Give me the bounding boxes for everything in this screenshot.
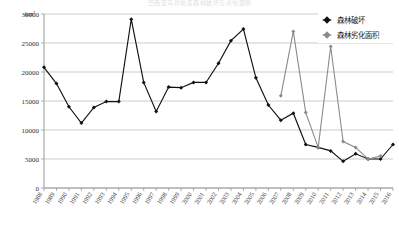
data-point-marker: [167, 85, 171, 89]
xtick-label: 2007: [267, 190, 280, 205]
data-point-marker: [179, 86, 183, 90]
data-point-marker: [341, 140, 345, 144]
xtick-label: 1989: [43, 191, 56, 206]
xtick-label: 2015: [367, 191, 380, 206]
xtick-label: 2004: [230, 190, 243, 205]
y-axis-unit-label: km²: [25, 10, 35, 17]
ytick-label: 10000: [22, 127, 40, 135]
data-point-marker: [304, 111, 308, 115]
ytick-label: 15000: [22, 98, 40, 106]
xtick-label: 2001: [193, 191, 206, 206]
ytick-label: 5000: [25, 156, 40, 164]
legend-item-forest-degradation: 森林劣化面积: [318, 27, 397, 42]
xtick-label: 2008: [280, 191, 293, 206]
xtick-label: 1995: [118, 191, 131, 206]
data-point-marker: [142, 80, 146, 84]
xtick-label: 1996: [130, 191, 143, 206]
xtick-label: 1998: [155, 191, 168, 206]
chart-container: 巴西亚马孙地区森林破坏与劣化面积 05000100001500020000250…: [0, 0, 399, 236]
legend-label-forest-destruction: 森林破坏: [337, 14, 365, 25]
xtick-label: 1994: [105, 190, 118, 205]
data-point-marker: [154, 109, 158, 113]
xtick-label: 1991: [68, 191, 81, 206]
xtick-label: 2009: [292, 191, 305, 206]
xtick-label: 2000: [180, 191, 193, 206]
legend-marker-diamond-gray: [322, 30, 332, 40]
xtick-label: 2005: [243, 191, 256, 206]
xtick-label: 2010: [305, 191, 318, 206]
xtick-label: 2002: [205, 191, 218, 206]
data-point-marker: [329, 44, 333, 48]
ytick-label: 25000: [22, 40, 40, 48]
data-point-marker: [117, 100, 121, 104]
xtick-label: 1988: [31, 191, 44, 206]
xtick-label: 2012: [330, 191, 343, 206]
series-line-1: [281, 31, 381, 159]
xtick-label: 2003: [218, 191, 231, 206]
xtick-label: 2013: [342, 191, 355, 206]
xtick-label: 2011: [317, 191, 330, 205]
data-point-marker: [279, 94, 283, 98]
xtick-label: 1990: [56, 191, 69, 206]
chart-legend: 森林破坏 森林劣化面积: [318, 12, 397, 43]
xtick-label: 2016: [380, 191, 393, 206]
xtick-label: 1992: [80, 191, 93, 206]
legend-label-forest-degradation: 森林劣化面积: [337, 29, 379, 40]
data-point-marker: [254, 76, 258, 80]
ytick-label: 20000: [22, 69, 40, 77]
legend-item-forest-destruction: 森林破坏: [318, 12, 397, 27]
xtick-label: 1999: [168, 191, 181, 206]
xtick-label: 1997: [143, 190, 156, 205]
legend-marker-diamond-black: [322, 15, 332, 25]
xtick-label: 2006: [255, 191, 268, 206]
xtick-label: 1993: [93, 191, 106, 206]
data-point-marker: [291, 29, 295, 33]
data-point-marker: [304, 143, 308, 147]
data-point-marker: [104, 100, 108, 104]
data-point-marker: [316, 145, 320, 149]
xtick-label: 2014: [355, 190, 368, 205]
data-point-marker: [129, 17, 133, 21]
data-point-marker: [192, 80, 196, 84]
